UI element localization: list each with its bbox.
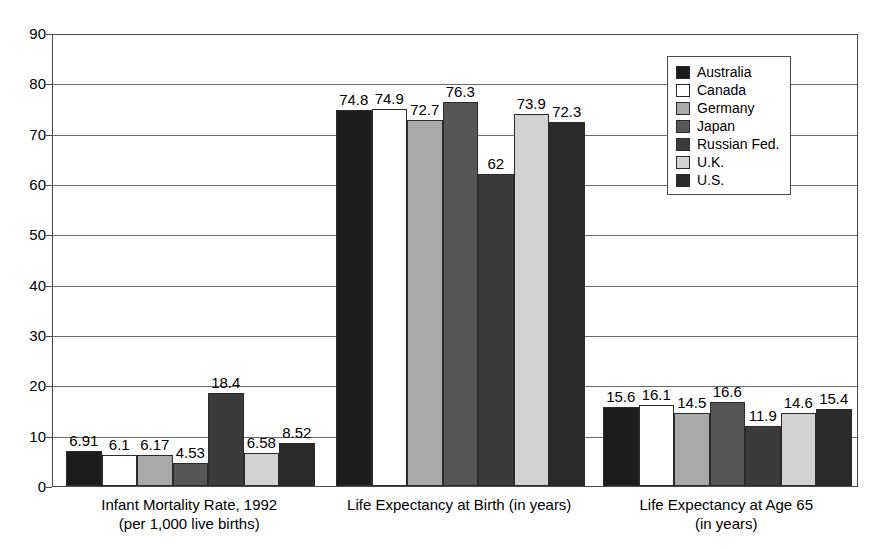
- legend-item-canada: Canada: [676, 81, 784, 99]
- bar-value-label: 15.4: [807, 391, 861, 406]
- bar-u-s-group-2: [549, 122, 585, 486]
- bar-group-2: 74.874.972.776.36273.972.3: [336, 35, 585, 486]
- legend-label: Germany: [697, 101, 755, 115]
- bar-australia-group-1: [66, 451, 102, 486]
- legend-label: U.S.: [697, 173, 724, 187]
- legend-item-japan: Japan: [676, 117, 784, 135]
- bar-russian-fed-group-3: [745, 426, 781, 486]
- bar-australia-group-3: [603, 407, 639, 486]
- bar-u-k-group-2: [514, 114, 550, 486]
- bar-germany-group-3: [674, 413, 710, 486]
- y-tick-label-30: 30: [4, 328, 46, 343]
- legend-swatch-icon: [676, 66, 690, 79]
- y-tick-label-90: 90: [4, 26, 46, 41]
- legend-item-russian-fed: Russian Fed.: [676, 135, 784, 153]
- bar-australia-group-2: [336, 110, 372, 486]
- bar-russian-fed-group-2: [478, 174, 514, 486]
- y-tick-label-20: 20: [4, 378, 46, 393]
- bar-value-label: 18.4: [199, 375, 253, 390]
- legend-item-u-s: U.S.: [676, 171, 784, 189]
- legend-swatch-icon: [676, 120, 690, 133]
- y-tick-label-80: 80: [4, 76, 46, 91]
- legend-item-germany: Germany: [676, 99, 784, 117]
- legend-swatch-icon: [676, 156, 690, 169]
- legend-item-australia: Australia: [676, 63, 784, 81]
- legend-label: U.K.: [697, 155, 724, 169]
- category-label-3: Life Expectancy at Age 65(in years): [542, 495, 886, 533]
- bar-japan-group-1: [173, 463, 209, 486]
- legend-label: Australia: [697, 65, 751, 79]
- bar-canada-group-3: [639, 405, 675, 486]
- legend-label: Canada: [697, 83, 746, 97]
- legend-swatch-icon: [676, 84, 690, 97]
- y-tick-label-40: 40: [4, 278, 46, 293]
- y-tick-label-50: 50: [4, 227, 46, 242]
- bar-u-s-group-3: [816, 409, 852, 487]
- legend: AustraliaCanadaGermanyJapanRussian Fed.U…: [667, 56, 791, 195]
- y-tick-label-0: 0: [4, 479, 46, 494]
- bar-group-1: 6.916.16.174.5318.46.588.52: [66, 35, 315, 486]
- bar-canada-group-1: [102, 455, 138, 486]
- bar-chart: 9080706050403020100 6.916.16.174.5318.46…: [0, 0, 886, 549]
- legend-swatch-icon: [676, 174, 690, 187]
- y-tick-label-60: 60: [4, 177, 46, 192]
- bar-canada-group-2: [372, 109, 408, 486]
- category-label-line: (in years): [542, 514, 886, 533]
- bar-value-label: 16.6: [701, 384, 755, 399]
- y-axis: 9080706050403020100: [0, 34, 46, 487]
- bar-u-k-group-3: [781, 413, 817, 486]
- y-tick-mark-0: [46, 487, 52, 488]
- bar-u-s-group-1: [279, 443, 315, 486]
- bar-value-label: 8.52: [270, 425, 324, 440]
- y-tick-label-10: 10: [4, 429, 46, 444]
- bar-u-k-group-1: [244, 453, 280, 486]
- bar-germany-group-2: [407, 120, 443, 486]
- category-label-line: (per 1,000 live births): [5, 514, 374, 533]
- y-tick-label-70: 70: [4, 127, 46, 142]
- bar-value-label: 76.3: [434, 84, 488, 99]
- legend-item-u-k: U.K.: [676, 153, 784, 171]
- bar-value-label: 72.3: [540, 104, 594, 119]
- legend-label: Japan: [697, 119, 735, 133]
- legend-label: Russian Fed.: [697, 137, 779, 151]
- category-label-line: Life Expectancy at Age 65: [542, 495, 886, 514]
- legend-swatch-icon: [676, 102, 690, 115]
- legend-swatch-icon: [676, 138, 690, 151]
